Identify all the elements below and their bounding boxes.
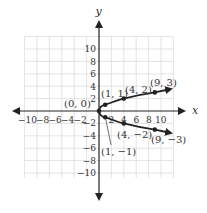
label-4-2: (4, 2) <box>125 84 152 95</box>
y-axis-label: y <box>95 5 103 18</box>
point-9-3 <box>153 90 158 95</box>
svg-text:−8: −8 <box>36 115 50 125</box>
label-9-3: (9, 3) <box>150 77 177 88</box>
graph: x y −10 −8 −6 −4 −2 2 4 6 8 10 10 8 6 4 … <box>0 0 207 213</box>
label-9-neg3: (9, −3) <box>151 134 186 145</box>
svg-text:8: 8 <box>90 57 96 67</box>
svg-text:−8: −8 <box>83 156 97 166</box>
label-1-neg1: (1, −1) <box>101 146 136 157</box>
label-origin: (0, 0) <box>64 98 91 109</box>
label-4-neg2: (4, −2) <box>117 129 152 140</box>
svg-text:10: 10 <box>85 44 97 54</box>
svg-text:6: 6 <box>90 69 96 79</box>
svg-text:8: 8 <box>146 115 152 125</box>
svg-text:4: 4 <box>90 82 96 92</box>
svg-text:−6: −6 <box>49 115 63 125</box>
point-1-1 <box>103 103 108 108</box>
svg-text:6: 6 <box>134 115 140 125</box>
svg-text:2: 2 <box>90 94 96 104</box>
svg-text:−2: −2 <box>83 118 96 128</box>
point-9-neg3 <box>153 127 158 132</box>
point-1-neg1 <box>103 115 108 120</box>
svg-text:−6: −6 <box>83 143 97 153</box>
svg-text:−4: −4 <box>83 131 97 141</box>
point-4-neg2 <box>122 121 127 126</box>
svg-text:−4: −4 <box>61 115 75 125</box>
svg-text:−10: −10 <box>18 115 37 125</box>
svg-text:−10: −10 <box>77 168 96 178</box>
label-1-1: (1, 1) <box>101 88 128 99</box>
x-axis-label: x <box>192 104 199 117</box>
svg-text:10: 10 <box>155 115 167 125</box>
point-0-0 <box>97 109 102 114</box>
